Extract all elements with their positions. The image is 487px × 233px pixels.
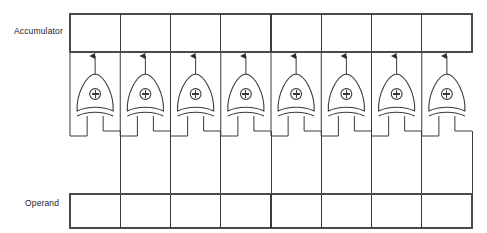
- xor-gate-arc: [379, 112, 415, 116]
- circuit-svg: [0, 0, 487, 233]
- xor-gate: [178, 74, 214, 116]
- xor-gate-arc: [278, 112, 314, 116]
- accumulator-cell: [120, 14, 170, 52]
- xor-gate-arc: [127, 112, 163, 116]
- accumulator-label: Accumulator: [14, 26, 63, 36]
- operand-input-wire: [354, 116, 371, 131]
- xor-gate-arc: [328, 112, 364, 116]
- circuit-diagram: Accumulator Operand: [0, 0, 487, 233]
- wire-layer: [70, 52, 472, 194]
- operand-input-wire: [204, 116, 221, 131]
- accumulator-cell: [171, 14, 221, 52]
- accumulator-cell: [271, 14, 321, 52]
- operand-cell: [171, 194, 221, 228]
- operand-label: Operand: [25, 198, 59, 208]
- operand-input-wire: [455, 116, 472, 131]
- xor-gate: [127, 74, 163, 116]
- xor-gate: [77, 74, 113, 116]
- xor-gate: [429, 74, 465, 116]
- accumulator-cell: [221, 14, 271, 52]
- operand-cell: [321, 194, 371, 228]
- operand-cell: [120, 194, 170, 228]
- xor-gate-arc: [77, 112, 113, 116]
- operand-cell: [271, 194, 321, 228]
- operand-cell: [372, 194, 422, 228]
- operand-input-wire: [304, 116, 321, 131]
- accumulator-cell: [422, 14, 472, 52]
- xor-gate-arc: [178, 112, 214, 116]
- accumulator-cell: [70, 14, 120, 52]
- operand-cell: [422, 194, 472, 228]
- operand-cell: [221, 194, 271, 228]
- xor-gate-arc: [429, 112, 465, 116]
- xor-gate: [328, 74, 364, 116]
- xor-gate: [278, 74, 314, 116]
- operand-input-wire: [254, 116, 271, 131]
- accumulator-cell: [372, 14, 422, 52]
- operand-input-wire: [405, 116, 422, 131]
- xor-gate: [379, 74, 415, 116]
- operand-cell: [70, 194, 120, 228]
- xor-gate: [228, 74, 264, 116]
- operand-input-wire: [103, 116, 120, 131]
- operand-input-wire: [153, 116, 170, 131]
- xor-gate-arc: [228, 112, 264, 116]
- accumulator-cell: [321, 14, 371, 52]
